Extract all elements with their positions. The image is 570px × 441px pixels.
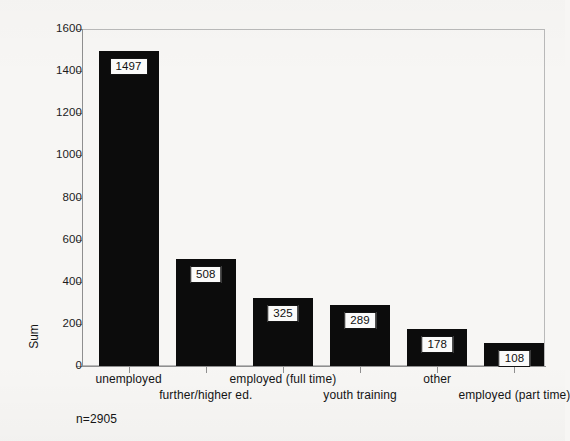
- x-tick-mark: [360, 367, 361, 373]
- x-axis-label: employed (full time): [230, 373, 337, 386]
- y-tick-label: 1000: [42, 149, 82, 161]
- y-tick-label: 1600: [42, 23, 82, 35]
- x-tick-mark: [514, 367, 515, 373]
- y-tick-label: 400: [42, 276, 82, 288]
- y-axis-title: Sum: [28, 317, 41, 357]
- y-tick-label: 1400: [42, 65, 82, 77]
- y-tick-label: 200: [42, 318, 82, 330]
- y-tick-label: 800: [42, 192, 82, 204]
- bar: [99, 51, 159, 366]
- x-axis-label: employed (part time): [458, 389, 570, 402]
- x-axis-label: youth training: [323, 389, 396, 402]
- y-axis-line: [82, 29, 83, 367]
- sample-size-annotation: n=2905: [76, 413, 117, 426]
- bar-value-label: 178: [422, 336, 454, 353]
- y-tick-label: 600: [42, 234, 82, 246]
- y-tick-label: 0: [42, 360, 82, 372]
- x-axis-label: other: [423, 373, 451, 386]
- bar-value-label: 289: [344, 312, 376, 329]
- x-axis-label: unemployed: [95, 373, 161, 386]
- bar-value-label: 325: [267, 305, 299, 322]
- bar-value-label: 1497: [110, 58, 148, 75]
- x-tick-mark: [206, 367, 207, 373]
- bar-value-label: 508: [190, 266, 222, 283]
- y-tick-label: 1200: [42, 107, 82, 119]
- x-axis-line: [82, 366, 546, 367]
- bar-value-label: 108: [499, 350, 531, 367]
- x-axis-label: further/higher ed.: [159, 389, 252, 402]
